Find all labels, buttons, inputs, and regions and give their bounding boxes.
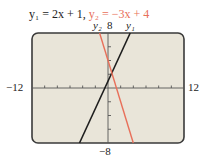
line-y1-label: y₁ [126,19,135,31]
x-max-label: 12 [188,81,199,93]
y-min-label: −8 [99,145,111,157]
y-max-label: 8 [107,19,113,31]
x-min-label: −12 [6,81,23,93]
line-y2-label: y₂ [93,19,102,31]
